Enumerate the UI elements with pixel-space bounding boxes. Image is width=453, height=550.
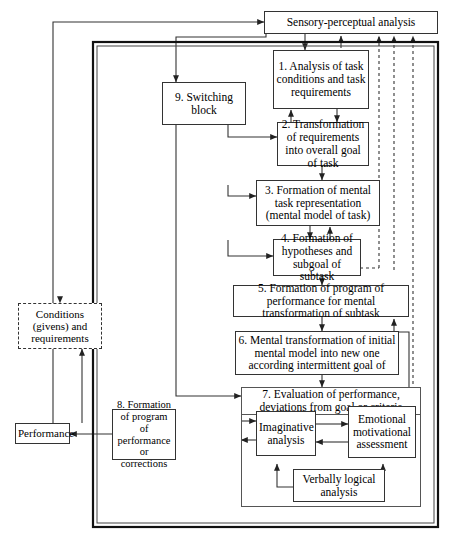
node-label: 9. Switching block	[165, 91, 243, 117]
node-label: Imaginative analysis	[259, 421, 313, 447]
node-label: 8. Formation of program of performance o…	[115, 399, 173, 470]
node-box-2-transformation-of-requirements[interactable]: 2. Transformation of requirements into o…	[277, 122, 369, 166]
node-label: Verbally logical analysis	[296, 473, 382, 499]
node-label: 4. Formation of hypotheses and subgoal o…	[276, 232, 358, 284]
node-label: Conditions (givens) and requirements	[21, 308, 99, 345]
node-label: 2. Transformation of requirements into o…	[280, 118, 366, 170]
node-imaginative-analysis[interactable]: Imaginative analysis	[256, 411, 316, 456]
node-box-8-formation-of-program-or-corrections[interactable]: 8. Formation of program of performance o…	[112, 409, 176, 460]
node-label: 6. Mental transformation of initial ment…	[238, 334, 396, 373]
node-label: Sensory-perceptual analysis	[267, 16, 435, 29]
node-label: Emotional motivational assessment	[351, 413, 413, 452]
node-performance[interactable]: Performance	[15, 423, 70, 444]
node-box-5-formation-of-program-of-performance[interactable]: 5. Formation of program of performance f…	[233, 285, 409, 317]
node-switching-block[interactable]: 9. Switching block	[162, 82, 246, 125]
node-label: Performance	[18, 427, 67, 439]
node-box-6-mental-transformation[interactable]: 6. Mental transformation of initial ment…	[235, 331, 399, 375]
node-emotional-motivational-assessment[interactable]: Emotional motivational assessment	[348, 406, 416, 458]
node-conditions-givens-and-requirements[interactable]: Conditions (givens) and requirements	[18, 303, 102, 349]
node-box-3-formation-of-mental-task-representation[interactable]: 3. Formation of mental task representati…	[256, 180, 380, 226]
node-verbally-logical-analysis[interactable]: Verbally logical analysis	[293, 469, 385, 502]
node-label: 3. Formation of mental task representati…	[259, 184, 377, 223]
node-box-1-analysis-of-task-conditions[interactable]: 1. Analysis of task conditions and task …	[273, 50, 369, 109]
node-label: 1. Analysis of task conditions and task …	[276, 60, 366, 99]
node-sensory-perceptual-analysis[interactable]: Sensory-perceptual analysis	[264, 11, 438, 34]
node-box-4-formation-of-hypotheses[interactable]: 4. Formation of hypotheses and subgoal o…	[273, 239, 361, 276]
diagram-canvas: Sensory-perceptual analysis 9. Switching…	[0, 0, 453, 550]
node-label: 5. Formation of program of performance f…	[236, 282, 406, 321]
